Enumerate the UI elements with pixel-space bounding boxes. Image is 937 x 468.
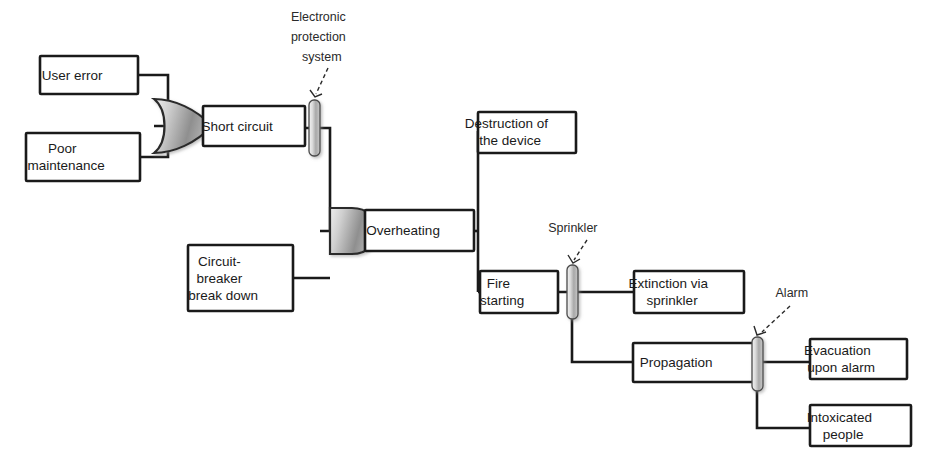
node-circuit-breaker-break-down-label: Circuit- breaker break down bbox=[188, 254, 292, 303]
node-poor-maintenance[interactable]: Poor maintenance bbox=[26, 133, 140, 181]
node-short-circuit-label: Short circuit bbox=[201, 119, 306, 134]
bowtie-diagram-canvas: User error Poor maintenance Short circui… bbox=[0, 0, 937, 468]
node-user-error[interactable]: User error bbox=[40, 56, 138, 94]
barrier-electronic-protection-system-pointer bbox=[316, 68, 328, 94]
node-overheating[interactable]: Overheating bbox=[365, 210, 474, 251]
node-propagation-label: Propagation bbox=[640, 355, 747, 370]
barrier-sprinkler-label: Sprinkler bbox=[548, 221, 622, 235]
node-overheating-label: Overheating bbox=[366, 223, 473, 238]
node-fire-starting[interactable]: Fire starting bbox=[480, 271, 558, 313]
barrier-electronic-protection-system[interactable] bbox=[309, 100, 320, 156]
node-layer: User error Poor maintenance Short circui… bbox=[26, 56, 913, 446]
connector-propagation-to-intoxicated bbox=[757, 388, 810, 428]
connector-fire-to-propagation bbox=[572, 316, 633, 362]
bowtie-diagram: User error Poor maintenance Short circui… bbox=[0, 0, 937, 468]
node-destruction-of-the-device[interactable]: Destruction of the device bbox=[465, 112, 590, 153]
node-evacuation-upon-alarm[interactable]: Evacuation upon alarm bbox=[804, 339, 912, 379]
node-propagation[interactable]: Propagation bbox=[633, 343, 754, 382]
node-intoxicated-people[interactable]: Intoxicated people bbox=[807, 405, 914, 446]
node-user-error-label: User error bbox=[42, 68, 137, 83]
barrier-layer: Electronic protection system Sprinkler A… bbox=[291, 10, 833, 391]
node-circuit-breaker-break-down[interactable]: Circuit- breaker break down bbox=[188, 245, 293, 311]
barrier-electronic-protection-system-label: Electronic protection system bbox=[291, 10, 377, 64]
node-short-circuit[interactable]: Short circuit bbox=[201, 106, 306, 146]
barrier-alarm[interactable] bbox=[752, 337, 763, 391]
node-extinction-via-sprinkler[interactable]: Extinction via sprinkler bbox=[629, 271, 750, 313]
barrier-sprinkler-pointer bbox=[574, 240, 587, 260]
barrier-alarm-label: Alarm bbox=[776, 286, 833, 300]
barrier-sprinkler[interactable] bbox=[567, 265, 578, 319]
barrier-alarm-pointer bbox=[762, 306, 790, 332]
